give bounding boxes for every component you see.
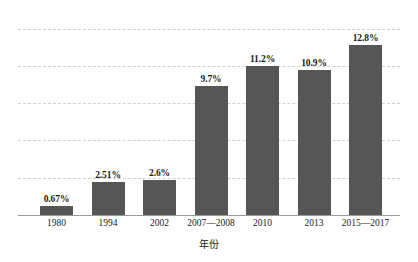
bar-chart: 0.67%2.51%2.6%9.7%11.2%10.9%12.8% 198019… — [0, 0, 418, 262]
bar-value-label: 10.9% — [301, 58, 327, 68]
bar-group: 11.2% — [246, 66, 279, 215]
bar — [298, 70, 331, 215]
bar — [246, 66, 279, 215]
bar — [40, 206, 73, 215]
bar — [143, 180, 176, 215]
bar-value-label: 11.2% — [250, 54, 275, 64]
bar-value-label: 2.51% — [95, 170, 121, 180]
bar-group: 2.51% — [92, 182, 125, 215]
bar — [195, 86, 228, 215]
bar-value-label: 9.7% — [201, 74, 222, 84]
bar-value-label: 2.6% — [149, 168, 170, 178]
x-axis-title: 年份 — [0, 236, 418, 251]
bar-series: 0.67%2.51%2.6%9.7%11.2%10.9%12.8% — [0, 0, 418, 216]
bar-group: 0.67% — [40, 206, 73, 215]
x-axis-tick-labels: 1980199420022007—2008201020132015—2017 — [0, 218, 418, 236]
bar-group: 12.8% — [349, 45, 382, 215]
bar-group: 10.9% — [298, 70, 331, 215]
bar — [92, 182, 125, 215]
bar-value-label: 12.8% — [353, 33, 379, 43]
bar-group: 2.6% — [143, 180, 176, 215]
bar-group: 9.7% — [195, 86, 228, 215]
x-tick-label: 2015—2017 — [326, 218, 406, 228]
bar-value-label: 0.67% — [44, 194, 70, 204]
bar — [349, 45, 382, 215]
